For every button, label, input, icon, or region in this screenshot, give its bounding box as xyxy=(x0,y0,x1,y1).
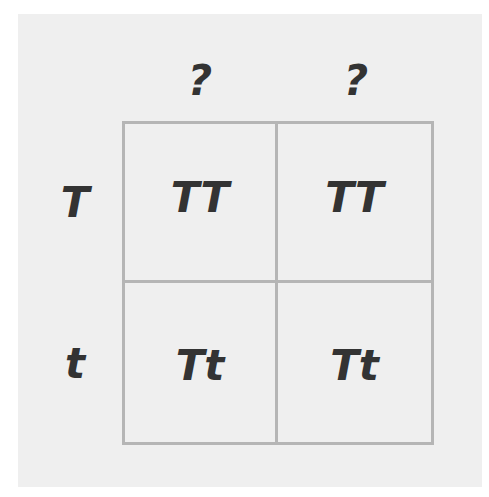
punnett-cell-r1c2: TT xyxy=(278,124,431,283)
punnett-square-grid: TT TT Tt Tt xyxy=(122,121,434,445)
genotype-label: TT xyxy=(325,177,383,219)
genotype-label: Tt xyxy=(330,345,379,387)
genotype-label: Tt xyxy=(176,345,225,387)
punnett-cell-r2c2: Tt xyxy=(278,283,431,442)
row-header-allele-2: t xyxy=(40,343,110,385)
row-header-allele-1: T xyxy=(40,182,110,224)
punnett-cell-r2c1: Tt xyxy=(125,283,278,442)
genotype-label: TT xyxy=(171,177,229,219)
column-header-allele-1: ? xyxy=(122,60,278,102)
punnett-cell-r1c1: TT xyxy=(125,124,278,283)
column-header-allele-2: ? xyxy=(278,60,434,102)
